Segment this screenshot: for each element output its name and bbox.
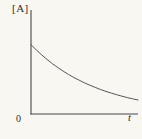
decay-curve xyxy=(31,45,138,100)
x-axis-label: t xyxy=(128,113,131,124)
origin-tick-label: 0 xyxy=(16,114,21,124)
y-axis-label: [A] xyxy=(12,3,29,14)
kinetics-decay-figure: [A] 0 t xyxy=(0,0,142,139)
decay-chart xyxy=(0,0,142,139)
